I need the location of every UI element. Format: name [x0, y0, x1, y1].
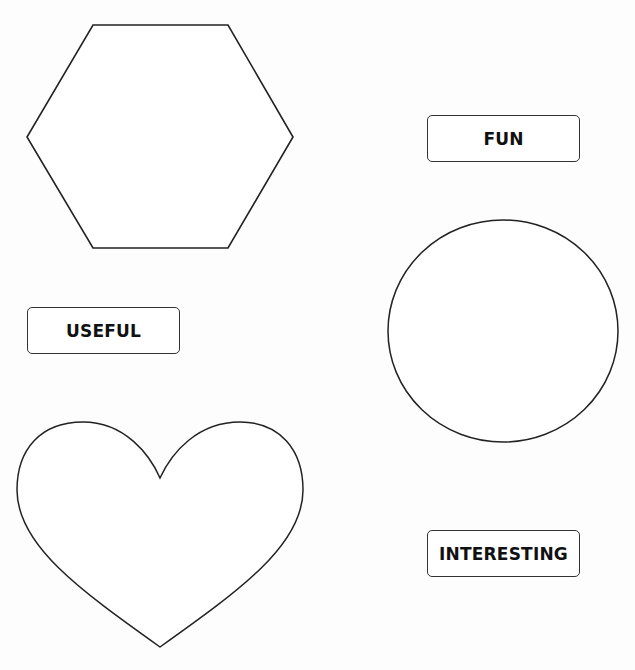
label-fun-text: FUN: [483, 129, 523, 149]
hexagon-shape[interactable]: [27, 25, 293, 248]
label-interesting-text: INTERESTING: [439, 544, 568, 564]
label-fun[interactable]: FUN: [427, 115, 580, 162]
circle-shape[interactable]: [388, 220, 618, 442]
label-interesting[interactable]: INTERESTING: [427, 530, 580, 577]
heart-shape[interactable]: [17, 422, 303, 647]
worksheet-page: FUN USEFUL INTERESTING: [0, 0, 635, 670]
label-useful-text: USEFUL: [66, 321, 141, 341]
label-useful[interactable]: USEFUL: [27, 307, 180, 354]
